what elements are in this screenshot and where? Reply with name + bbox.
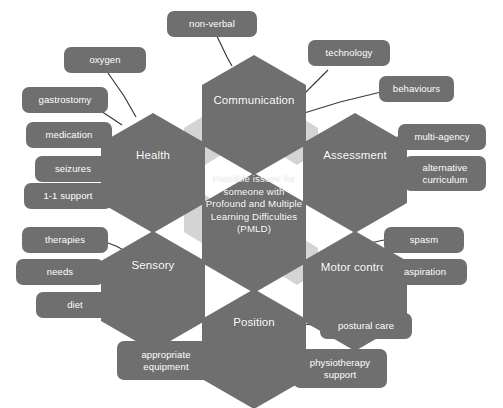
center-title: Possible issues for someone with Profoun… (192, 173, 317, 236)
node-box-medication[interactable]: medication (26, 122, 112, 148)
hexagon-label-position: Position (233, 315, 275, 330)
hexagon-position[interactable] (202, 289, 306, 408)
node-box-gastrostomy[interactable]: gastrostomy (22, 87, 108, 113)
node-box-physiotherapy-support[interactable]: physiotherapy support (293, 349, 387, 388)
node-box-alternative-curriculum[interactable]: alternative curriculum (404, 156, 486, 191)
center-title-line-3: Profound and Multiple (192, 199, 317, 212)
pmld-hexagon-mind-map: Communication Health Assessment Sensory … (0, 0, 503, 408)
hexagon-assessment[interactable] (303, 113, 407, 233)
hexagon-label-communication: Communication (213, 93, 294, 108)
node-box-behaviours[interactable]: behaviours (379, 76, 454, 102)
node-box-therapies[interactable]: therapies (22, 227, 108, 253)
hexagon-sensory[interactable] (101, 231, 205, 351)
node-box-multi-agency[interactable]: multi-agency (398, 124, 486, 150)
node-box-postural-care[interactable]: postural care (320, 313, 412, 339)
hexagon-label-assessment: Assessment (323, 148, 387, 163)
node-box-needs[interactable]: needs (16, 259, 104, 285)
node-box-seizures[interactable]: seizures (35, 156, 111, 182)
node-box-diet[interactable]: diet (36, 292, 114, 318)
node-box-oxygen[interactable]: oxygen (64, 47, 146, 73)
hexagon-label-sensory: Sensory (132, 258, 175, 273)
node-box-1-1-support[interactable]: 1-1 support (24, 183, 112, 209)
hexagon-label-health: Health (136, 148, 170, 163)
node-box-spasm[interactable]: spasm (384, 227, 464, 253)
node-box-technology[interactable]: technology (308, 40, 390, 66)
center-title-line-1: Possible issues for (192, 173, 317, 186)
node-box-appropriate-equipment[interactable]: appropriate equipment (117, 341, 215, 380)
center-title-line-2: someone with (192, 186, 317, 199)
node-box-non-verbal[interactable]: non-verbal (167, 11, 257, 37)
node-box-aspiration[interactable]: aspiration (383, 259, 467, 285)
hexagon-label-motor-control: Motor control (321, 260, 389, 275)
center-title-line-4: Learning Difficulties (192, 211, 317, 224)
center-title-line-5: (PMLD) (192, 224, 317, 237)
